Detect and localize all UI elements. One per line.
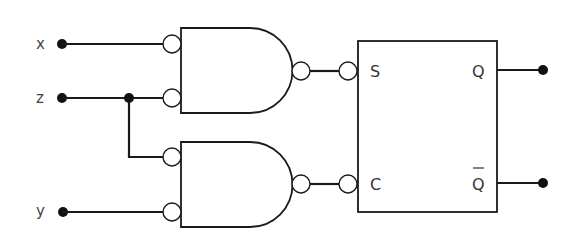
gate1-nand [163, 28, 310, 113]
gate1-input-bubble-2 [163, 89, 181, 107]
flipflop: S C Q Q [339, 41, 497, 212]
gate2-input-bubble-2 [163, 203, 181, 221]
C-input-bubble [339, 175, 357, 193]
gate2-input-bubble-1 [163, 148, 181, 166]
pin-label-S: S [370, 62, 380, 81]
pin-label-Q: Q [472, 62, 485, 81]
input-label-y: y [36, 202, 45, 220]
gate2-and-body [181, 142, 293, 227]
S-input-bubble [339, 62, 357, 80]
pin-label-Q-bar: Q [472, 175, 485, 194]
input-label-z: z [36, 89, 44, 107]
logic-circuit-diagram: x z y S C Q Q [0, 0, 577, 241]
wire-z-branch-to-gate2 [129, 98, 164, 157]
input-label-x: x [36, 35, 45, 53]
gate1-and-body [181, 28, 293, 113]
pin-label-C: C [370, 175, 381, 194]
output-terminal-Q [538, 65, 548, 75]
gate2-output-bubble [292, 175, 310, 193]
output-terminal-Q-bar [538, 178, 548, 188]
gate1-input-bubble-1 [163, 35, 181, 53]
gate1-output-bubble [292, 62, 310, 80]
junction-dot [124, 93, 134, 103]
gate2-nand [163, 142, 310, 227]
